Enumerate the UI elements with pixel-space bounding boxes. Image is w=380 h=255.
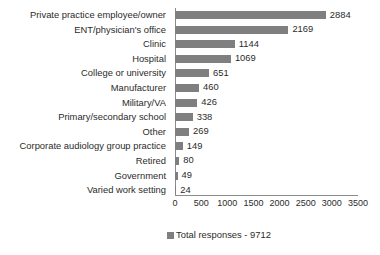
- category-label: Clinic: [0, 37, 170, 52]
- bar-value-label: 269: [193, 124, 209, 139]
- bar-value-label: 1144: [239, 37, 259, 52]
- bar-value-label: 651: [213, 66, 229, 81]
- category-label: Primary/secondary school: [0, 110, 170, 125]
- bar: [175, 128, 189, 136]
- x-tick-label: 3000: [322, 197, 342, 210]
- category-label: ENT/physician's office: [0, 23, 170, 38]
- x-tick-label: 1500: [243, 197, 263, 210]
- bar-row: 2884: [175, 8, 358, 23]
- bar-row: 269: [175, 125, 358, 140]
- bar-row: 80: [175, 154, 358, 169]
- bar: [175, 11, 326, 19]
- category-label: Manufacturer: [0, 81, 170, 96]
- bar-value-label: 80: [183, 153, 193, 168]
- bar-value-label: 2884: [330, 8, 351, 23]
- x-tick-label: 1000: [217, 197, 237, 210]
- bar: [175, 26, 288, 34]
- x-tick-label: 2500: [296, 197, 316, 210]
- x-axis-tick-labels: 0500100015002000250030003500: [175, 197, 358, 211]
- bar: [175, 157, 179, 165]
- x-tick-label: 500: [194, 197, 209, 210]
- category-label: Corporate audiology group practice: [0, 139, 170, 154]
- category-axis-labels: Private practice employee/ownerENT/physi…: [0, 8, 170, 198]
- category-label: College or university: [0, 66, 170, 81]
- category-label: Other: [0, 125, 170, 140]
- category-label: Hospital: [0, 52, 170, 67]
- bar-row: 1144: [175, 37, 358, 52]
- bar-chart: Private practice employee/ownerENT/physi…: [0, 0, 380, 255]
- bar-row: 338: [175, 110, 358, 125]
- category-label: Military/VA: [0, 96, 170, 111]
- bar-row: 149: [175, 139, 358, 154]
- bar: [175, 172, 178, 180]
- bar: [175, 55, 231, 63]
- bar-row: 2169: [175, 23, 358, 38]
- bar-row: 1069: [175, 52, 358, 67]
- bar-value-label: 426: [201, 95, 217, 110]
- legend-swatch-icon: [167, 232, 174, 239]
- category-label: Government: [0, 169, 170, 184]
- bar: [175, 84, 199, 92]
- bar-value-label: 338: [197, 110, 213, 125]
- bar: [175, 69, 209, 77]
- bar: [175, 186, 176, 194]
- bar: [175, 99, 197, 107]
- bar-value-label: 2169: [292, 22, 313, 37]
- category-label: Varied work setting: [0, 183, 170, 198]
- category-label: Private practice employee/owner: [0, 8, 170, 23]
- bar-value-label: 460: [203, 80, 219, 95]
- bar-value-label: 1069: [235, 51, 256, 66]
- category-label: Retired: [0, 154, 170, 169]
- bar-row: 49: [175, 169, 358, 184]
- chart-legend: Total responses - 9712: [0, 229, 380, 241]
- x-tick-label: 3500: [348, 197, 368, 210]
- bar-value-label: 49: [182, 168, 192, 183]
- bar-value-label: 24: [180, 183, 190, 198]
- bar: [175, 40, 235, 48]
- bar-row: 24: [175, 183, 358, 198]
- plot-area: 2884216911441069651460426338269149804924: [175, 8, 358, 196]
- bar: [175, 142, 183, 150]
- bar-row: 426: [175, 96, 358, 111]
- bar: [175, 113, 193, 121]
- legend-label: Total responses - 9712: [176, 229, 271, 240]
- bar-row: 460: [175, 81, 358, 96]
- x-tick-label: 2000: [270, 197, 290, 210]
- bar-value-label: 149: [187, 139, 203, 154]
- bar-row: 651: [175, 66, 358, 81]
- x-tick-label: 0: [172, 197, 177, 210]
